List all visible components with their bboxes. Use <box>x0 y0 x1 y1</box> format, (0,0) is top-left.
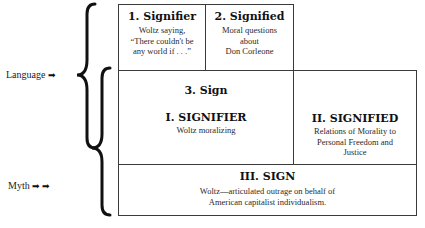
myth-sign-text: Woltz—articulated outrage on behalf of A… <box>119 186 416 207</box>
sign-box: 3. Sign I. SIGNIFIER Woltz moralizing <box>118 70 294 165</box>
myth-signified-line: Justice <box>294 147 416 158</box>
myth-text: Myth <box>8 180 30 191</box>
myth-signified-text: Relations of Morality to Personal Freedo… <box>294 126 416 158</box>
sign-title: 3. Sign <box>119 84 293 97</box>
language-text: Language <box>6 69 45 80</box>
myth-sign-title: III. SIGN <box>119 170 416 183</box>
myth-sign-line: American capitalist individualism. <box>119 197 416 208</box>
myth-signified-title: II. SIGNIFIED <box>294 112 416 125</box>
myth-sign-box: III. SIGN Woltz—articulated outrage on b… <box>118 164 417 216</box>
myth-signified-line: Personal Freedom and <box>294 137 416 148</box>
signified-title: 2. Signified <box>206 10 293 23</box>
arrow-right-icon: ➡ <box>48 70 56 80</box>
myth-signified-box: II. SIGNIFIED Relations of Morality to P… <box>293 70 417 165</box>
signifier-box: 1. Signifier Woltz saying, “There couldn… <box>118 4 206 71</box>
myth-signifier-title: I. SIGNIFIER <box>119 111 293 124</box>
braces <box>68 0 118 228</box>
signifier-line: “There couldn't be <box>119 36 205 47</box>
myth-label: Myth ➡ ➡ <box>8 180 50 191</box>
myth-signified-line: Relations of Morality to <box>294 126 416 137</box>
myth-signifier-text: Woltz moralizing <box>119 125 293 136</box>
signified-text: Moral questions about Don Corleone <box>206 25 293 57</box>
signified-line: Moral questions <box>206 25 293 36</box>
signifier-text: Woltz saying, “There couldn't be any wor… <box>119 25 205 57</box>
language-brace-icon <box>77 4 95 148</box>
signified-line: about <box>206 36 293 47</box>
signified-line: Don Corleone <box>206 46 293 57</box>
signifier-line: any world if . . .” <box>119 46 205 57</box>
language-label: Language ➡ <box>6 69 56 80</box>
myth-brace-icon <box>92 68 110 215</box>
double-arrow-right-icon: ➡ ➡ <box>32 181 50 191</box>
signifier-line: Woltz saying, <box>119 25 205 36</box>
signified-box: 2. Signified Moral questions about Don C… <box>205 4 294 71</box>
signifier-title: 1. Signifier <box>119 10 205 23</box>
myth-sign-line: Woltz—articulated outrage on behalf of <box>119 186 416 197</box>
